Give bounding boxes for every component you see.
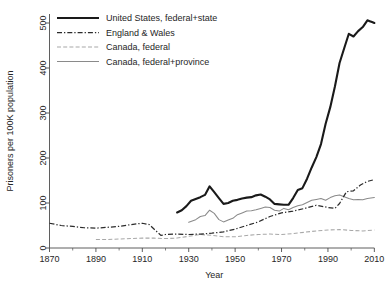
y-axis-tick-group: 0100200300400500	[38, 15, 50, 250]
legend-item-label: England & Wales	[106, 28, 175, 38]
y-axis-title: Prisoners per 100K population	[5, 70, 15, 191]
x-tick-label: 2010	[364, 254, 384, 264]
x-tick-label: 1930	[179, 254, 199, 264]
legend-item-label: United States, federal+state	[106, 13, 217, 23]
x-tick-label: 1990	[318, 254, 338, 264]
y-tick-label: 500	[38, 15, 48, 30]
x-axis-tick-group: 18701890191019301950197019902010	[39, 248, 384, 264]
chart-legend: United States, federal+stateEngland & Wa…	[57, 13, 217, 67]
x-tick-label: 1870	[39, 254, 59, 264]
prisoners-line-chart: 0100200300400500 18701890191019301950197…	[0, 0, 386, 289]
y-tick-label: 200	[38, 150, 48, 165]
x-tick-label: 1890	[86, 254, 106, 264]
legend-item-label: Canada, federal	[106, 42, 170, 52]
y-tick-label: 400	[38, 60, 48, 75]
legend-item-label: Canada, federal+province	[106, 57, 209, 67]
data-series-group	[50, 20, 375, 239]
y-tick-label: 100	[38, 195, 48, 210]
x-tick-label: 1910	[132, 254, 152, 264]
chart-container: 0100200300400500 18701890191019301950197…	[0, 0, 386, 289]
y-tick-label: 0	[38, 245, 48, 250]
x-tick-label: 1970	[272, 254, 292, 264]
x-tick-label: 1950	[225, 254, 245, 264]
y-tick-label: 300	[38, 105, 48, 120]
series-line-canada-federal-province	[189, 195, 375, 222]
series-line-united-states	[177, 20, 374, 212]
x-axis-title: Year	[205, 270, 223, 280]
series-line-canada-federal	[96, 230, 374, 240]
